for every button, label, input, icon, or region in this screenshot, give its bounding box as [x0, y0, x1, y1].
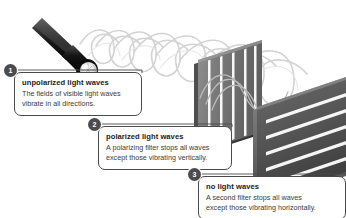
callout-badge-3: 3 [188, 168, 201, 181]
callout-body-line: The fields of visible light waves [22, 89, 135, 99]
callout-body-line: A second filter stops all waves [206, 193, 339, 203]
callout-title: unpolarized light waves [22, 78, 135, 88]
callout-unpolarized-light-waves: unpolarized light waves The fields of vi… [14, 72, 142, 116]
callout-no-light-waves: no light waves A second filter stops all… [198, 176, 346, 218]
polarization-diagram: 1 unpolarized light waves The fields of … [0, 0, 346, 218]
callout-body-line: vibrate in all directions. [22, 99, 135, 109]
callout-badge-2: 2 [88, 118, 101, 131]
callout-badge-1: 1 [4, 64, 17, 77]
callout-body-line: except those vibrating vertically. [106, 153, 225, 163]
callout-title: polarized light waves [106, 132, 225, 142]
callout-body-line: except those vibrating horizontally. [206, 203, 339, 213]
callout-title: no light waves [206, 182, 339, 192]
callout-polarized-light-waves: polarized light waves A polarizing filte… [98, 126, 232, 170]
callout-body-line: A polarizing filter stops all waves [106, 143, 225, 153]
